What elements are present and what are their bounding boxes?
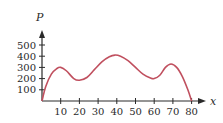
x-axis-arrow-icon [198, 98, 206, 104]
data-curve [42, 55, 192, 101]
x-tick-label: 50 [129, 106, 142, 117]
x-axis-label: x [210, 95, 217, 108]
x-tick-label: 30 [92, 106, 105, 117]
y-tick-label: 200 [17, 73, 36, 84]
y-tick-label: 100 [17, 84, 36, 95]
chart: 100200300400500 1020304050607080 P x [0, 0, 223, 123]
x-tick-label: 10 [54, 106, 67, 117]
x-tick-label: 60 [148, 106, 161, 117]
y-axis: 100200300400500 [17, 30, 45, 101]
x-tick-label: 70 [167, 106, 180, 117]
y-axis-arrow-icon [39, 30, 45, 38]
x-tick-label: 40 [110, 106, 123, 117]
y-axis-label: P [35, 11, 44, 24]
y-tick-label: 500 [17, 40, 36, 51]
x-axis: 1020304050607080 [42, 98, 206, 117]
x-tick-label: 20 [73, 106, 86, 117]
y-tick-label: 300 [17, 62, 36, 73]
x-tick-label: 80 [185, 106, 198, 117]
y-tick-label: 400 [17, 51, 36, 62]
